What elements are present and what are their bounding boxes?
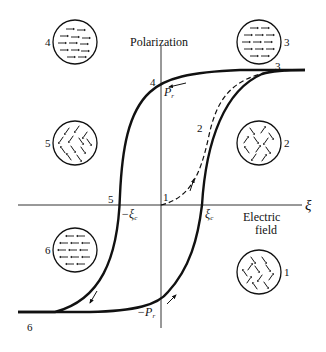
pr-subscript: r bbox=[171, 92, 174, 100]
point-label-5: 5 bbox=[108, 194, 114, 205]
circle-label-3: 3 bbox=[284, 37, 290, 48]
xi-c-marker: ξc bbox=[205, 208, 213, 222]
circle-label-5: 5 bbox=[45, 138, 51, 149]
y-axis-label: Polarization bbox=[130, 36, 188, 48]
neg-xi-c-text: −ξ bbox=[121, 207, 134, 221]
domain-circle-1 bbox=[237, 250, 281, 294]
x-axis-label-line1: Electric bbox=[243, 211, 280, 223]
x-axis-symbol: ξ bbox=[305, 198, 311, 213]
circle-label-4: 4 bbox=[45, 37, 51, 48]
domain-circle-6 bbox=[53, 228, 97, 272]
point-label-2: 2 bbox=[197, 123, 203, 134]
neg-pr-text: −P bbox=[137, 305, 152, 319]
arrow-lower-up bbox=[167, 295, 176, 304]
point-label-6: 6 bbox=[27, 322, 33, 333]
x-axis-label-line2: field bbox=[255, 224, 277, 236]
neg-pr-marker: −Pr bbox=[137, 306, 155, 320]
domain-circle-2 bbox=[237, 121, 281, 165]
neg-pr-subscript: r bbox=[152, 312, 155, 320]
circle-label-2: 2 bbox=[284, 138, 290, 149]
domain-circle-4 bbox=[53, 20, 97, 64]
point-label-4: 4 bbox=[150, 77, 156, 88]
circle-label-6: 6 bbox=[45, 245, 51, 256]
point-label-3: 3 bbox=[275, 61, 281, 72]
domain-circle-3 bbox=[237, 20, 281, 64]
point-label-1: 1 bbox=[163, 192, 169, 203]
circle-label-1: 1 bbox=[284, 267, 290, 278]
neg-xi-c-marker: −ξc bbox=[121, 208, 137, 222]
xi-c-subscript: c bbox=[210, 214, 213, 222]
neg-xi-c-subscript: c bbox=[134, 214, 137, 222]
pr-marker: Pr bbox=[164, 86, 174, 100]
domain-circle-5 bbox=[53, 121, 97, 165]
hysteresis-diagram bbox=[0, 0, 326, 352]
